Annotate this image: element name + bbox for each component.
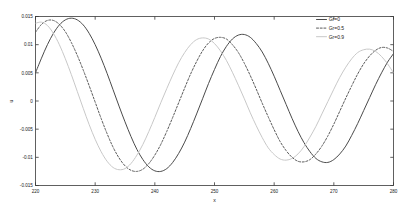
y-tick-label: 0.01: [24, 42, 33, 47]
legend-label-0: Gr=0: [329, 16, 340, 22]
series-line-0: [36, 18, 394, 171]
series-line-1: [36, 20, 394, 172]
x-tick-label: 240: [151, 189, 159, 194]
y-tick-label: 0.005: [21, 71, 33, 76]
x-tick-label: 260: [270, 189, 278, 194]
plot-frame: [36, 17, 394, 186]
x-tick-label: 280: [390, 189, 398, 194]
y-tick-label: 0.015: [21, 14, 33, 19]
legend-label-1: Gr=0.5: [329, 25, 345, 31]
y-axis-label: u: [8, 99, 14, 102]
x-tick-label: 250: [211, 189, 219, 194]
series-group: [36, 18, 394, 171]
y-tick-label: -0.005: [20, 127, 33, 132]
legend-label-2: Gr=0.9: [329, 34, 345, 40]
x-tick-label: 270: [330, 189, 338, 194]
chart-figure: 220230240250260270280-0.015-0.01-0.00500…: [0, 0, 407, 216]
x-tick-label: 230: [91, 189, 99, 194]
series-line-2: [36, 22, 394, 170]
y-tick-label: -0.015: [20, 183, 33, 188]
x-axis-label: x: [213, 197, 216, 203]
x-tick-label: 220: [32, 189, 40, 194]
y-tick-label: -0.01: [22, 155, 33, 160]
chart-svg: 220230240250260270280-0.015-0.01-0.00500…: [0, 0, 407, 216]
y-tick-label: 0: [30, 99, 33, 104]
